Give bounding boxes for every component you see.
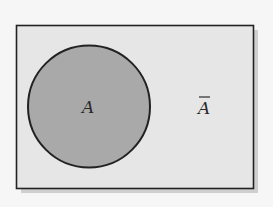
complement-label: A: [196, 98, 210, 118]
venn-diagram-svg: A A: [0, 0, 273, 207]
venn-diagram: A A: [0, 0, 273, 207]
set-a-label: A: [80, 97, 94, 117]
